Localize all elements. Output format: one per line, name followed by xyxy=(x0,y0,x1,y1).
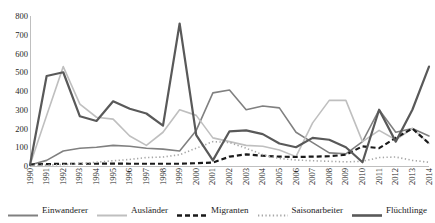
series-line-saisonarbeiter xyxy=(30,142,429,166)
x-axis-tick: 2009 xyxy=(341,168,350,185)
x-axis-tick: 2006 xyxy=(292,168,301,185)
x-axis-tick: 2014 xyxy=(425,168,434,185)
x-axis-tick: 2004 xyxy=(258,168,267,185)
x-axis-tick: 2007 xyxy=(308,168,317,185)
x-axis-tick: 2003 xyxy=(242,168,251,185)
x-axis-tick: 1998 xyxy=(159,168,168,185)
y-axis-tick: 800 xyxy=(2,12,28,21)
legend-swatch-icon xyxy=(258,206,288,215)
legend-swatch-icon xyxy=(8,206,38,215)
legend-item-auslnder[interactable]: Ausländer xyxy=(97,206,168,215)
y-axis-tick: 600 xyxy=(2,50,28,59)
legend-swatch-icon xyxy=(177,206,207,215)
chart-legend: EinwandererAusländerMigrantenSaisonarbei… xyxy=(0,200,435,220)
x-axis-tick: 2012 xyxy=(391,168,400,185)
legend-label: Ausländer xyxy=(131,206,168,215)
y-axis-tick: 200 xyxy=(2,125,28,134)
y-axis-tick: 400 xyxy=(2,87,28,96)
legend-item-einwanderer[interactable]: Einwanderer xyxy=(8,206,88,215)
x-axis-tick: 1997 xyxy=(142,168,151,185)
x-axis-line xyxy=(30,166,429,167)
x-axis-tick: 2010 xyxy=(358,168,367,185)
x-axis-tick: 1990 xyxy=(26,168,35,185)
x-axis-tick: 2013 xyxy=(408,168,417,185)
x-axis-tick: 2011 xyxy=(375,168,384,185)
legend-swatch-icon xyxy=(352,206,382,215)
legend-label: Saisonarbeiter xyxy=(292,206,343,215)
x-axis-tick: 2001 xyxy=(208,168,217,185)
y-axis-tick-labels: 8007006005004003002001000 xyxy=(0,0,28,223)
series-lines xyxy=(30,16,429,166)
x-axis-tick: 1992 xyxy=(59,168,68,185)
x-axis-tick: 2005 xyxy=(275,168,284,185)
x-axis-tick: 1999 xyxy=(175,168,184,185)
y-axis-tick: 300 xyxy=(2,106,28,115)
x-axis-tick: 2008 xyxy=(325,168,334,185)
legend-label: Einwanderer xyxy=(42,206,88,215)
plot-area xyxy=(30,16,429,166)
series-line-flchtlinge xyxy=(30,24,429,166)
y-axis-tick: 500 xyxy=(2,68,28,77)
y-axis-tick: 100 xyxy=(2,143,28,152)
x-axis-tick: 1995 xyxy=(109,168,118,185)
series-line-auslnder xyxy=(30,67,429,165)
x-axis-tick: 2000 xyxy=(192,168,201,185)
line-chart: 8007006005004003002001000 19901991199219… xyxy=(0,0,435,223)
x-axis-tick: 1993 xyxy=(75,168,84,185)
legend-item-flchtlinge[interactable]: Flüchtlinge xyxy=(352,206,427,215)
x-axis-tick-labels: 1990199119921993199419951996199719981999… xyxy=(30,168,429,202)
x-axis-tick: 1996 xyxy=(125,168,134,185)
legend-label: Flüchtlinge xyxy=(386,206,427,215)
y-axis-tick: 700 xyxy=(2,31,28,40)
x-axis-tick: 1994 xyxy=(92,168,101,185)
legend-item-migranten[interactable]: Migranten xyxy=(177,206,249,215)
series-line-einwanderer xyxy=(30,90,429,165)
x-axis-tick: 1991 xyxy=(42,168,51,185)
legend-item-saisonarbeiter[interactable]: Saisonarbeiter xyxy=(258,206,343,215)
x-axis-tick: 2002 xyxy=(225,168,234,185)
legend-label: Migranten xyxy=(211,206,249,215)
legend-swatch-icon xyxy=(97,206,127,215)
